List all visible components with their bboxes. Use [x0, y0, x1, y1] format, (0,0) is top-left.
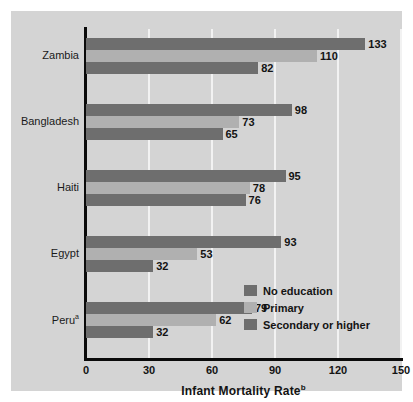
category-label-footnote: a	[75, 313, 79, 320]
bar-row: 93	[86, 236, 401, 248]
legend-label: Secondary or higher	[263, 319, 370, 331]
bar[interactable]	[86, 128, 223, 140]
bar-value-label: 62	[216, 314, 231, 326]
bar[interactable]	[86, 302, 252, 314]
bar-value-label: 73	[239, 116, 254, 128]
bar-row: 95	[86, 170, 401, 182]
x-axis-tick-labels: 0306090120150	[86, 364, 401, 380]
legend-item[interactable]: No education	[244, 283, 396, 298]
bar[interactable]	[86, 170, 286, 182]
legend-swatch	[244, 319, 257, 330]
bar[interactable]	[86, 236, 281, 248]
x-axis-tick-label: 120	[329, 364, 347, 376]
bar-value-label: 93	[281, 236, 296, 248]
bar-value-label: 82	[258, 62, 273, 74]
bar-value-label: 98	[292, 104, 307, 116]
x-axis-title: Infant Mortality Rateb	[86, 383, 401, 398]
x-axis-title-text: Infant Mortality Rate	[181, 384, 301, 398]
legend-swatch	[244, 302, 257, 313]
legend-swatch	[244, 285, 257, 296]
bar-value-label: 32	[153, 326, 168, 338]
bar-group: Haiti957876	[86, 170, 401, 206]
legend-label: No education	[263, 285, 333, 297]
bar-value-label: 32	[153, 260, 168, 272]
x-axis-tick-label: 0	[83, 364, 89, 376]
bar-value-label: 133	[365, 38, 386, 50]
bar[interactable]	[86, 182, 250, 194]
bar[interactable]	[86, 50, 317, 62]
x-axis-tick-label: 90	[269, 364, 281, 376]
x-axis-title-footnote: b	[301, 383, 306, 392]
category-label: Perua	[52, 313, 79, 326]
bar[interactable]	[86, 62, 258, 74]
bar[interactable]	[86, 326, 153, 338]
chart-root: Zambia13311082Bangladesh987365Haiti95787…	[0, 0, 413, 402]
bar[interactable]	[86, 248, 197, 260]
x-axis-tick-label: 150	[392, 364, 410, 376]
bar-row: 82	[86, 62, 401, 74]
bar[interactable]	[86, 104, 292, 116]
legend-label: Primary	[263, 302, 304, 314]
bar-value-label: 78	[250, 182, 265, 194]
bar[interactable]	[86, 38, 365, 50]
figure-panel: Zambia13311082Bangladesh987365Haiti95787…	[11, 11, 402, 391]
bar[interactable]	[86, 194, 246, 206]
category-label: Zambia	[42, 49, 79, 61]
bar-value-label: 95	[286, 170, 301, 182]
bar-value-label: 65	[223, 128, 238, 140]
category-label: Bangladesh	[21, 115, 79, 127]
bar-group: Egypt935332	[86, 236, 401, 272]
bar-row: 73	[86, 116, 401, 128]
bar[interactable]	[86, 314, 216, 326]
bar-row: 53	[86, 248, 401, 260]
bar-row: 98	[86, 104, 401, 116]
bar-value-label: 110	[317, 50, 338, 62]
legend-item[interactable]: Primary	[244, 300, 396, 315]
bar[interactable]	[86, 260, 153, 272]
bar-group: Bangladesh987365	[86, 104, 401, 140]
bar-row: 32	[86, 260, 401, 272]
bar-value-label: 76	[246, 194, 261, 206]
category-label: Egypt	[51, 247, 79, 259]
legend-item[interactable]: Secondary or higher	[244, 317, 396, 332]
bar-row: 76	[86, 194, 401, 206]
bar[interactable]	[86, 116, 239, 128]
x-axis-tick-label: 30	[143, 364, 155, 376]
bar-row: 65	[86, 128, 401, 140]
bar-group: Zambia13311082	[86, 38, 401, 74]
bar-row: 78	[86, 182, 401, 194]
category-label: Haiti	[57, 181, 79, 193]
bar-value-label: 53	[197, 248, 212, 260]
legend: No educationPrimarySecondary or higher	[244, 283, 396, 334]
x-axis-tick-label: 60	[206, 364, 218, 376]
bar-row: 133	[86, 38, 401, 50]
bar-row: 110	[86, 50, 401, 62]
